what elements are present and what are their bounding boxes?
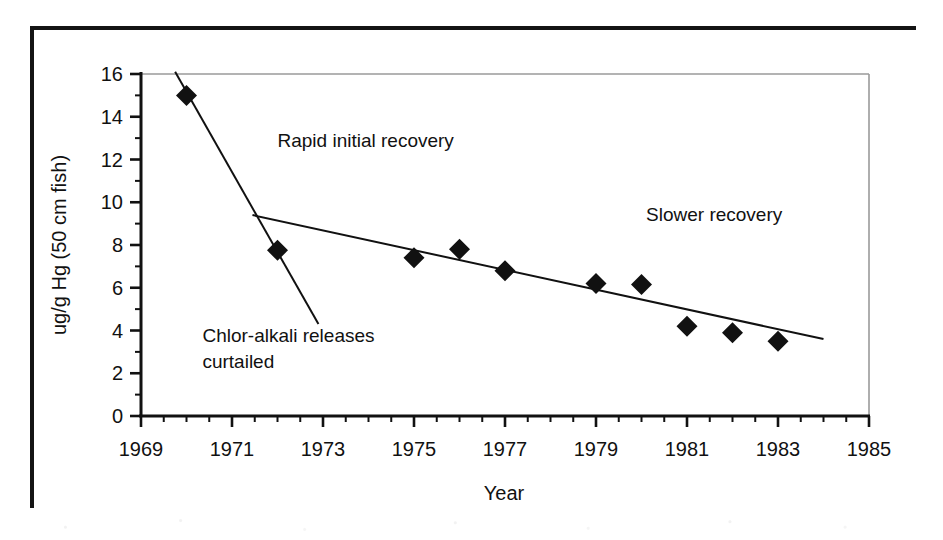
y-tick-label: 0: [112, 405, 123, 427]
y-axis-title: ug/g Hg (50 cm fish): [48, 155, 70, 335]
x-tick-label: 1979: [574, 438, 619, 460]
mercury-recovery-chart: 0246810121416 19691971197319751977197919…: [34, 30, 920, 512]
y-tick-label: 14: [101, 106, 123, 128]
figure-frame: 0246810121416 19691971197319751977197919…: [30, 26, 916, 508]
y-tick-label: 8: [112, 234, 123, 256]
y-tick-label: 6: [112, 277, 123, 299]
y-tick-label: 2: [112, 362, 123, 384]
x-tick-label: 1981: [665, 438, 710, 460]
x-tick-label: 1977: [483, 438, 528, 460]
x-tick-label: 1985: [847, 438, 892, 460]
x-tick-label: 1983: [756, 438, 801, 460]
scan-artifact-strip: [30, 514, 916, 536]
y-tick-label: 4: [112, 320, 123, 342]
y-tick-label: 12: [101, 149, 123, 171]
x-tick-label: 1973: [301, 438, 346, 460]
annotation-chlor-alkali-curtailed-line2: curtailed: [202, 351, 274, 372]
x-tick-label: 1971: [210, 438, 255, 460]
chart-canvas: 0246810121416 19691971197319751977197919…: [34, 30, 920, 512]
x-tick-label: 1975: [392, 438, 437, 460]
annotation-chlor-alkali-curtailed-line1: Chlor-alkali releases: [202, 325, 374, 346]
y-tick-label: 16: [101, 63, 123, 85]
x-tick-label: 1969: [119, 438, 164, 460]
annotation-rapid-initial-recovery: Rapid initial recovery: [278, 130, 455, 151]
y-tick-label: 10: [101, 191, 123, 213]
x-axis-title: Year: [484, 482, 525, 504]
annotation-slower-recovery: Slower recovery: [646, 204, 783, 225]
